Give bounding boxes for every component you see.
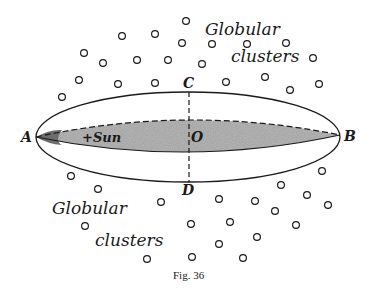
label-point-c: C <box>183 75 194 91</box>
globular-cluster-icon <box>165 57 172 64</box>
globular-cluster-icon <box>115 81 122 88</box>
globular-cluster-icon <box>152 80 159 87</box>
globular-cluster-icon <box>325 202 332 209</box>
globular-cluster-icon <box>152 31 159 38</box>
globular-cluster-icon <box>227 219 234 226</box>
globular-cluster-icon <box>188 221 195 228</box>
globular-cluster-icon <box>81 50 88 57</box>
globular-cluster-icon <box>119 33 126 40</box>
globular-cluster-icon <box>158 199 165 206</box>
globular-cluster-icon <box>293 222 300 229</box>
globular-cluster-icon <box>319 168 326 175</box>
cluster-label-upper: Globular clusters <box>205 19 300 66</box>
figure-caption: Fig. 36 <box>173 269 205 281</box>
globular-cluster-icon <box>254 234 261 241</box>
label-point-a: A <box>19 129 32 145</box>
label-point-o: O <box>191 129 204 145</box>
globular-cluster-icon <box>68 173 75 180</box>
cluster-label-lower: Globular clusters <box>52 198 164 250</box>
globular-cluster-icon <box>216 196 223 203</box>
label-point-b: B <box>343 128 356 144</box>
globular-cluster-icon <box>189 254 196 261</box>
globular-cluster-icon <box>59 94 66 101</box>
globular-cluster-icon <box>262 74 269 81</box>
globular-cluster-icon <box>287 87 294 94</box>
cluster-label-lower-line2: clusters <box>95 230 164 250</box>
globular-cluster-icon <box>183 18 190 25</box>
sun-label: +Sun <box>82 130 121 145</box>
globular-cluster-icon <box>310 55 317 62</box>
galaxy-diagram: A B C D O +Sun Globular clusters Globula… <box>0 0 372 291</box>
globular-cluster-icon <box>272 208 279 215</box>
globular-cluster-icon <box>316 81 323 88</box>
globular-cluster-icon <box>144 256 151 263</box>
globular-cluster-icon <box>240 255 247 262</box>
globular-cluster-icon <box>216 241 223 248</box>
globular-cluster-icon <box>76 77 83 84</box>
globular-cluster-icon <box>179 40 186 47</box>
globular-cluster-icon <box>304 192 311 199</box>
globular-cluster-icon <box>223 79 230 86</box>
globular-cluster-icon <box>134 57 141 64</box>
cluster-label-lower-line1: Globular <box>52 198 128 218</box>
globular-cluster-icon <box>95 186 102 193</box>
globular-cluster-icon <box>252 198 259 205</box>
cluster-label-upper-line1: Globular <box>205 19 281 39</box>
cluster-label-upper-line2: clusters <box>231 46 300 66</box>
label-point-d: D <box>181 182 195 198</box>
globular-cluster-icon <box>209 41 216 48</box>
globular-cluster-icon <box>199 61 206 68</box>
globular-cluster-icon <box>100 60 107 67</box>
globular-cluster-icon <box>82 223 89 230</box>
globular-cluster-icon <box>278 182 285 189</box>
